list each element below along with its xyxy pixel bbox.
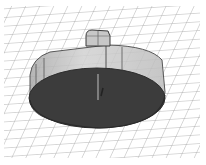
disc[interactable]	[29, 45, 165, 128]
scene-canvas	[0, 0, 206, 165]
3d-viewport[interactable]	[0, 0, 206, 165]
post[interactable]	[86, 30, 110, 46]
